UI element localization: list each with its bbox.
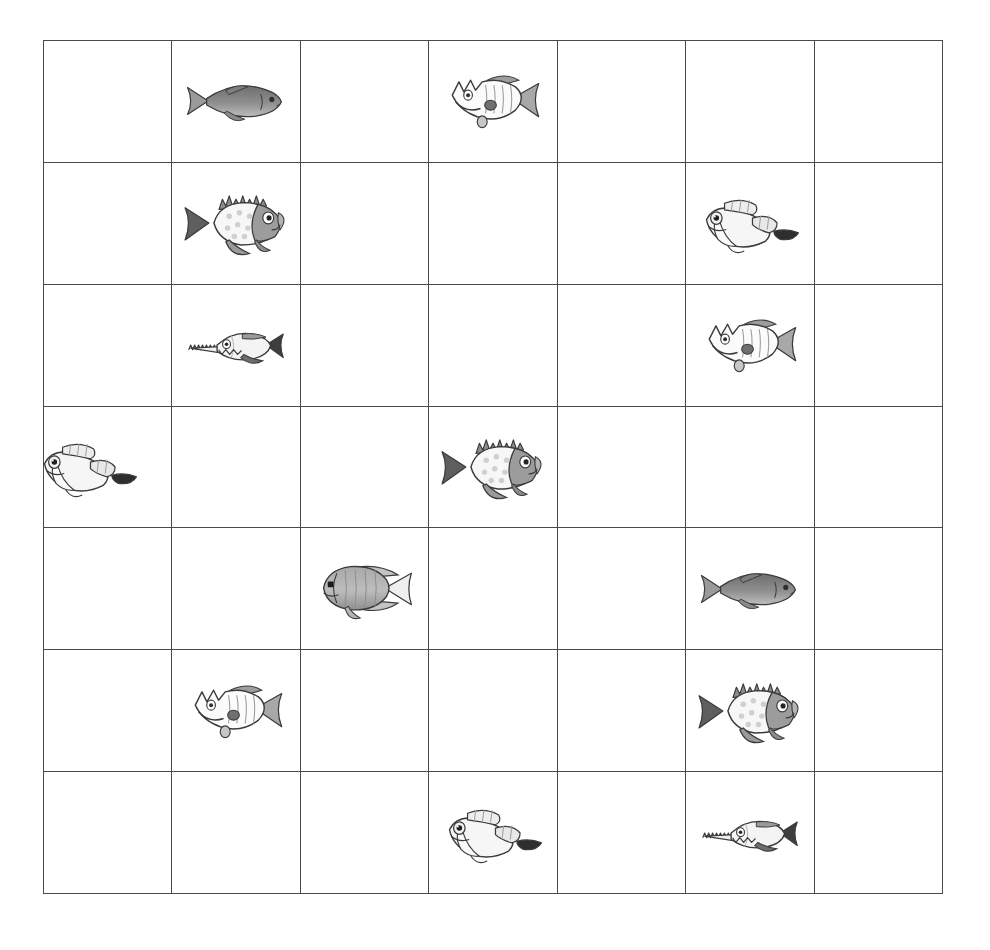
grid-cell-r7-c1[interactable] bbox=[44, 772, 172, 894]
grid-cell-r7-c7[interactable] bbox=[815, 772, 943, 894]
grid-cell-r1-c6[interactable] bbox=[686, 41, 814, 163]
grid-cell-r1-c1[interactable] bbox=[44, 41, 172, 163]
grid-cell-r1-c5[interactable] bbox=[558, 41, 686, 163]
fish-grid bbox=[43, 40, 943, 894]
grid-cell-r6-c7[interactable] bbox=[815, 650, 943, 772]
grid-cell-r5-c4[interactable] bbox=[429, 528, 557, 650]
grid-cell-r1-c2[interactable] bbox=[172, 41, 300, 163]
grid-cell-r7-c2[interactable] bbox=[172, 772, 300, 894]
fish-needle bbox=[172, 285, 299, 406]
fish-winged bbox=[429, 772, 556, 893]
grid-cell-r1-c4[interactable] bbox=[429, 41, 557, 163]
grid-cell-r2-c1[interactable] bbox=[44, 163, 172, 285]
grid-cell-r2-c3[interactable] bbox=[301, 163, 429, 285]
fish-trout bbox=[172, 41, 299, 162]
grid-cell-r3-c7[interactable] bbox=[815, 285, 943, 407]
grid-cell-r5-c7[interactable] bbox=[815, 528, 943, 650]
fish-spiky bbox=[172, 650, 299, 771]
fish-spiky bbox=[686, 285, 813, 406]
grid-cell-r3-c1[interactable] bbox=[44, 285, 172, 407]
grid-cell-r2-c2[interactable] bbox=[172, 163, 300, 285]
grid-cell-r2-c5[interactable] bbox=[558, 163, 686, 285]
grid-cell-r3-c5[interactable] bbox=[558, 285, 686, 407]
grid-cell-r7-c3[interactable] bbox=[301, 772, 429, 894]
fish-sunfish bbox=[429, 407, 556, 528]
fish-winged bbox=[44, 407, 171, 528]
grid-cell-r5-c5[interactable] bbox=[558, 528, 686, 650]
fish-trout bbox=[686, 528, 813, 649]
fish-sunfish bbox=[172, 163, 299, 284]
grid-cell-r7-c4[interactable] bbox=[429, 772, 557, 894]
grid-cell-r4-c6[interactable] bbox=[686, 407, 814, 529]
fish-needle bbox=[686, 772, 813, 893]
grid-cell-r1-c3[interactable] bbox=[301, 41, 429, 163]
fish-winged bbox=[686, 163, 813, 284]
grid-cell-r6-c1[interactable] bbox=[44, 650, 172, 772]
grid-cell-r2-c6[interactable] bbox=[686, 163, 814, 285]
grid-cell-r6-c5[interactable] bbox=[558, 650, 686, 772]
grid-cell-r3-c3[interactable] bbox=[301, 285, 429, 407]
grid-cell-r3-c6[interactable] bbox=[686, 285, 814, 407]
grid-cell-r6-c6[interactable] bbox=[686, 650, 814, 772]
grid-cell-r1-c7[interactable] bbox=[815, 41, 943, 163]
fish-grid-worksheet bbox=[0, 0, 990, 950]
grid-cell-r4-c1[interactable] bbox=[44, 407, 172, 529]
grid-cell-r6-c2[interactable] bbox=[172, 650, 300, 772]
grid-cell-r5-c1[interactable] bbox=[44, 528, 172, 650]
grid-cell-r5-c3[interactable] bbox=[301, 528, 429, 650]
fish-angel bbox=[301, 528, 428, 649]
grid-cell-r2-c7[interactable] bbox=[815, 163, 943, 285]
grid-cell-r4-c4[interactable] bbox=[429, 407, 557, 529]
grid-cell-r6-c4[interactable] bbox=[429, 650, 557, 772]
grid-cell-r2-c4[interactable] bbox=[429, 163, 557, 285]
grid-cell-r4-c2[interactable] bbox=[172, 407, 300, 529]
fish-spiky bbox=[429, 41, 556, 162]
grid-cell-r7-c6[interactable] bbox=[686, 772, 814, 894]
grid-cell-r5-c6[interactable] bbox=[686, 528, 814, 650]
grid-cell-r6-c3[interactable] bbox=[301, 650, 429, 772]
grid-cell-r7-c5[interactable] bbox=[558, 772, 686, 894]
grid-cell-r5-c2[interactable] bbox=[172, 528, 300, 650]
grid-cell-r3-c2[interactable] bbox=[172, 285, 300, 407]
grid-cell-r4-c7[interactable] bbox=[815, 407, 943, 529]
grid-cell-r3-c4[interactable] bbox=[429, 285, 557, 407]
fish-sunfish bbox=[686, 650, 813, 771]
grid-cell-r4-c5[interactable] bbox=[558, 407, 686, 529]
grid-cell-r4-c3[interactable] bbox=[301, 407, 429, 529]
